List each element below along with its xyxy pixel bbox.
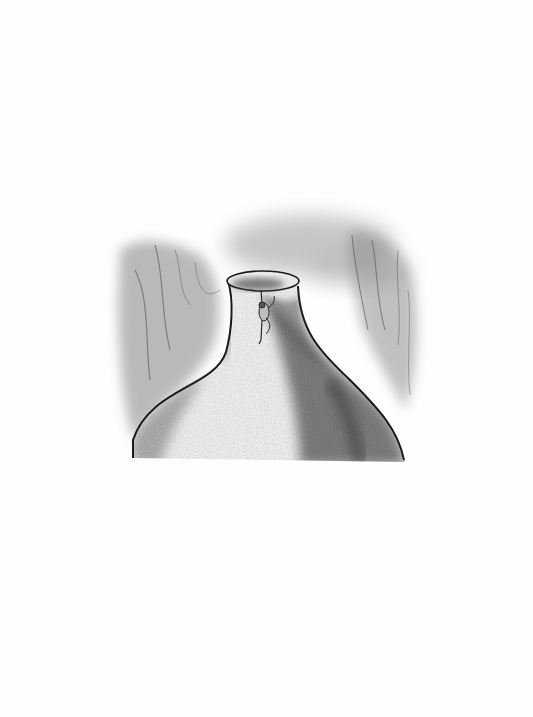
illustration-canvas — [0, 0, 533, 717]
bottle-opening — [227, 271, 299, 291]
background-trees-right — [349, 230, 417, 410]
pencil-illustration — [0, 0, 533, 717]
